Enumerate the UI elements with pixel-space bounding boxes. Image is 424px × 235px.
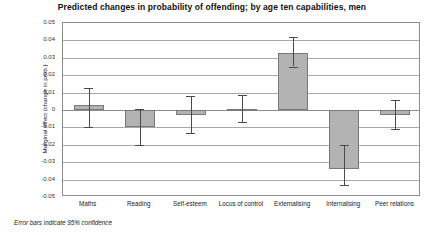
- error-bar-cap: [289, 37, 298, 38]
- x-tick-label: Self-esteem: [173, 200, 207, 207]
- x-tick-label: Externalising: [274, 200, 310, 207]
- error-bar-cap: [186, 96, 195, 97]
- x-tick-label: Peer relations: [375, 200, 414, 207]
- error-bar: [395, 100, 396, 130]
- error-bar-cap: [238, 95, 247, 96]
- error-bar-cap: [135, 145, 144, 146]
- error-bar-cap: [84, 88, 93, 89]
- error-bar-cap: [238, 122, 247, 123]
- error-bar-cap: [289, 67, 298, 68]
- error-bar-cap: [340, 145, 349, 146]
- y-tick-label: 0.03: [43, 54, 55, 60]
- y-tick-label: -0.04: [41, 176, 55, 182]
- x-tick-label: Locus of control: [219, 200, 263, 207]
- error-bar-cap: [135, 109, 144, 110]
- y-tick-label: -0.05: [41, 193, 55, 199]
- y-tick-label: 0.05: [43, 19, 55, 25]
- plot-area: [62, 22, 420, 196]
- y-axis-title: Marginal effect (change in prob.): [41, 65, 48, 154]
- y-tick-label: 0.04: [43, 36, 55, 42]
- x-tick-label: Reading: [127, 200, 150, 207]
- error-bar: [242, 95, 243, 122]
- error-bar: [89, 88, 90, 127]
- error-bar: [191, 96, 192, 133]
- x-axis-category-labels: MathsReadingSelf-esteemLocus of controlE…: [62, 198, 420, 212]
- chart-container: Predicted changes in probability of offe…: [0, 0, 424, 235]
- bars-and-error-bars: [63, 23, 419, 195]
- error-bar: [293, 37, 294, 67]
- error-bar: [344, 145, 345, 185]
- y-axis-title-wrapper: Marginal effect (change in prob.): [2, 22, 16, 196]
- chart-title: Predicted changes in probability of offe…: [0, 2, 424, 12]
- error-bar-cap: [391, 129, 400, 130]
- error-bar-cap: [84, 127, 93, 128]
- chart-footnote: Error bars indicate 95% confidence: [14, 219, 112, 226]
- error-bar-cap: [186, 133, 195, 134]
- x-tick-label: Internalising: [326, 200, 360, 207]
- y-tick-label: 0: [52, 106, 55, 112]
- error-bar-cap: [391, 100, 400, 101]
- error-bar-cap: [340, 185, 349, 186]
- y-tick-label: -0.03: [41, 158, 55, 164]
- error-bar: [140, 109, 141, 145]
- x-tick-label: Maths: [79, 200, 96, 207]
